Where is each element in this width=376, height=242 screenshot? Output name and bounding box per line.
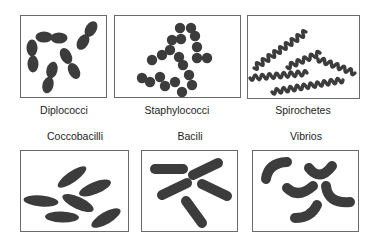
- panel-vibrios: Vibrios: [253, 130, 359, 232]
- panel-label: Vibrios: [290, 130, 322, 142]
- panel-label: Staphylococci: [145, 104, 210, 116]
- bacteria-morphology-diagram: Diplococci Staphylococci: [0, 0, 376, 242]
- panel-coccobacilli: Coccobacilli: [21, 130, 129, 232]
- panel-bacili: Bacili: [142, 130, 238, 232]
- panel-label: Coccobacilli: [47, 130, 103, 142]
- panel-label: Bacili: [177, 130, 202, 142]
- panel-label: Diplococci: [40, 104, 88, 116]
- panel-diplococci: Diplococci: [21, 16, 107, 117]
- panel-spirochetes: Spirochetes: [248, 16, 360, 117]
- panel-label: Spirochetes: [275, 104, 330, 116]
- panel-staphylococci: Staphylococci: [115, 16, 241, 117]
